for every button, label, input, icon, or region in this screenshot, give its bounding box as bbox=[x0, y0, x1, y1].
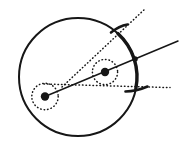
arc-end-tick-upper bbox=[111, 25, 128, 33]
center-line bbox=[45, 41, 178, 97]
right-center-dot bbox=[101, 68, 109, 76]
figure-svg bbox=[0, 0, 188, 154]
geometry-figure bbox=[0, 0, 188, 154]
left-center-dot bbox=[41, 92, 49, 100]
circle-intersection-node bbox=[132, 56, 138, 62]
